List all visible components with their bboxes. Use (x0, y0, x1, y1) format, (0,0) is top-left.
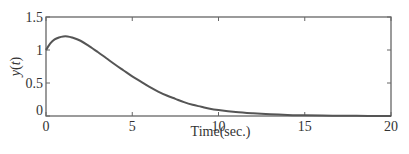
y-axis-label: y(t) (8, 56, 24, 78)
series-line-y-of-t (46, 36, 391, 116)
y-axis-ticks: 00.511.5 (26, 10, 392, 118)
y-tick-label: 1 (36, 43, 43, 58)
y-tick-label: 0 (36, 103, 43, 118)
x-axis-label: Time(sec.) (191, 124, 251, 140)
plot-frame (46, 17, 391, 116)
line-chart: 05101520 00.511.5 Time(sec.) y(t) (0, 0, 409, 154)
y-axis-label-close-paren: ) (8, 56, 24, 61)
x-tick-label: 5 (129, 119, 136, 134)
y-tick-label: 1.5 (26, 10, 44, 25)
x-tick-label: 20 (384, 119, 398, 134)
y-tick-label: 0.5 (26, 76, 44, 91)
x-tick-label: 0 (43, 119, 50, 134)
x-tick-label: 15 (298, 119, 312, 134)
